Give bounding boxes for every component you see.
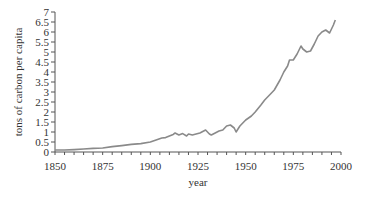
y-axis: 00.511.522.533.544.555.566.57	[35, 6, 55, 158]
line-chart: 00.511.522.533.544.555.566.57 1850187519…	[0, 0, 366, 197]
y-tick-label: 7	[44, 6, 50, 18]
x-axis: 1850187519001925195019752000	[44, 152, 353, 172]
x-tick-label: 2000	[330, 160, 353, 172]
x-axis-title: year	[189, 176, 208, 188]
x-tick-label: 1850	[44, 160, 67, 172]
x-tick-label: 1950	[235, 160, 258, 172]
carbon-per-capita-line	[55, 20, 335, 150]
x-tick-label: 1975	[282, 160, 305, 172]
x-tick-label: 1900	[139, 160, 162, 172]
x-tick-label: 1925	[187, 160, 210, 172]
x-tick-label: 1875	[92, 160, 115, 172]
y-axis-title: tons of carbon per capita	[12, 28, 24, 137]
